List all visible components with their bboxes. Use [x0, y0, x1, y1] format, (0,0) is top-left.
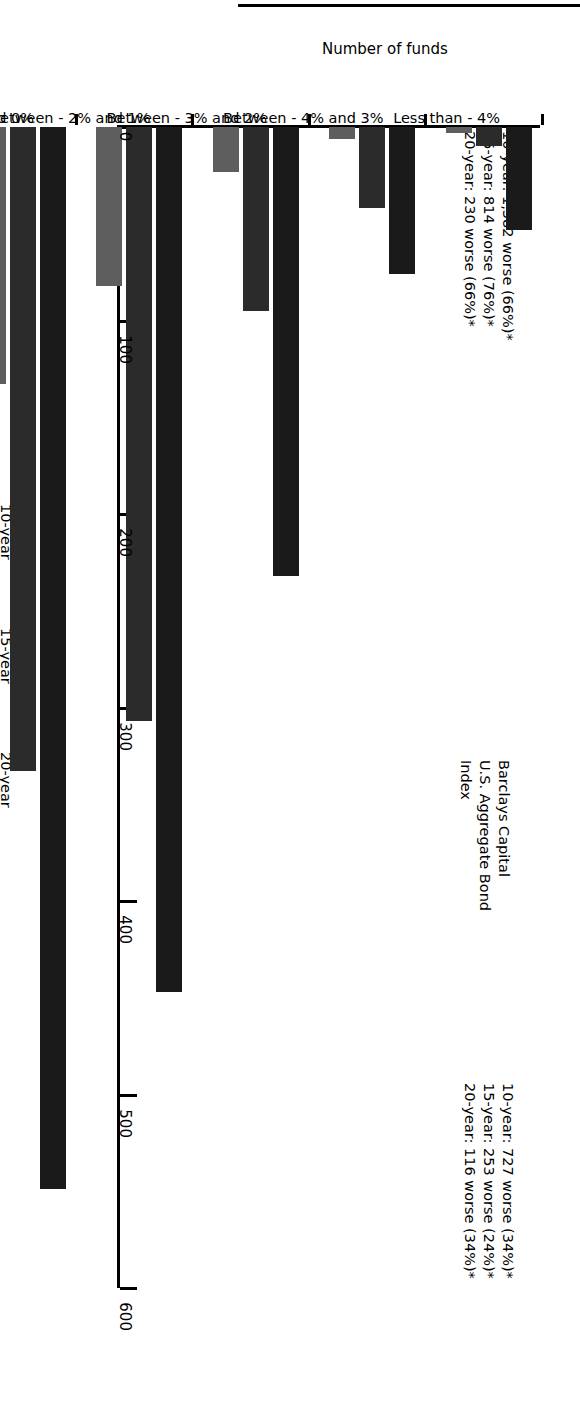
bar: [506, 127, 532, 230]
benchmark-label: Barclays CapitalU.S. Aggregate BondIndex: [456, 760, 513, 911]
bar: [10, 127, 36, 771]
category-axis-tick: [192, 114, 195, 125]
value-axis-tick-label: 0: [116, 132, 134, 142]
category-axis-tick: [308, 114, 311, 125]
value-axis-tick-label: 600: [116, 1302, 134, 1331]
bar: [446, 127, 472, 133]
value-axis-tick: [120, 1094, 137, 1097]
bar: [127, 127, 153, 721]
bar: [330, 127, 356, 139]
bar: [390, 127, 416, 274]
value-axis-tick-label: 400: [116, 915, 134, 944]
category-axis-tick: [425, 114, 428, 125]
bar: [213, 127, 239, 172]
bar-chart: Number of funds: [0, 0, 580, 1418]
bar: [40, 127, 66, 1189]
value-axis-tick-label: 200: [116, 528, 134, 557]
benchmark-label-line: Barclays Capital: [494, 760, 513, 911]
value-axis-tick: [120, 900, 137, 903]
value-axis-tick-label: 500: [116, 1109, 134, 1138]
bar: [273, 127, 299, 576]
value-axis-tick-label: 100: [116, 335, 134, 364]
bar: [360, 127, 386, 208]
bar: [476, 127, 502, 146]
bar: [0, 127, 6, 384]
category-axis-tick: [541, 114, 544, 125]
category-axis-tick: [75, 114, 78, 125]
bar: [243, 127, 269, 311]
value-axis-title: Number of funds: [322, 40, 448, 58]
bar: [157, 127, 183, 992]
benchmark-label-line: U.S. Aggregate Bond: [475, 760, 494, 911]
benchmark-label-line: Index: [456, 760, 475, 911]
value-axis-tick: [120, 1287, 137, 1290]
bar: [97, 127, 123, 286]
value-axis-tick-label: 300: [116, 722, 134, 751]
